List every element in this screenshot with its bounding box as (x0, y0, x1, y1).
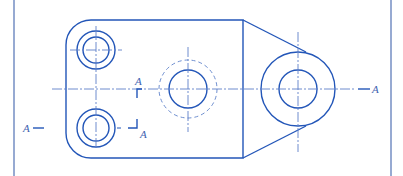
section-label-mid-bottom: A (139, 128, 147, 140)
lug-upper-tangent (243, 20, 306, 52)
lug-lower-tangent (243, 126, 306, 158)
section-label-mid-top: A (134, 75, 142, 87)
section-label-left: A (22, 122, 30, 134)
centerlines (52, 26, 356, 152)
technical-drawing: A A A A (0, 0, 403, 176)
cutting-plane (33, 89, 370, 128)
section-label-right: A (371, 83, 379, 95)
